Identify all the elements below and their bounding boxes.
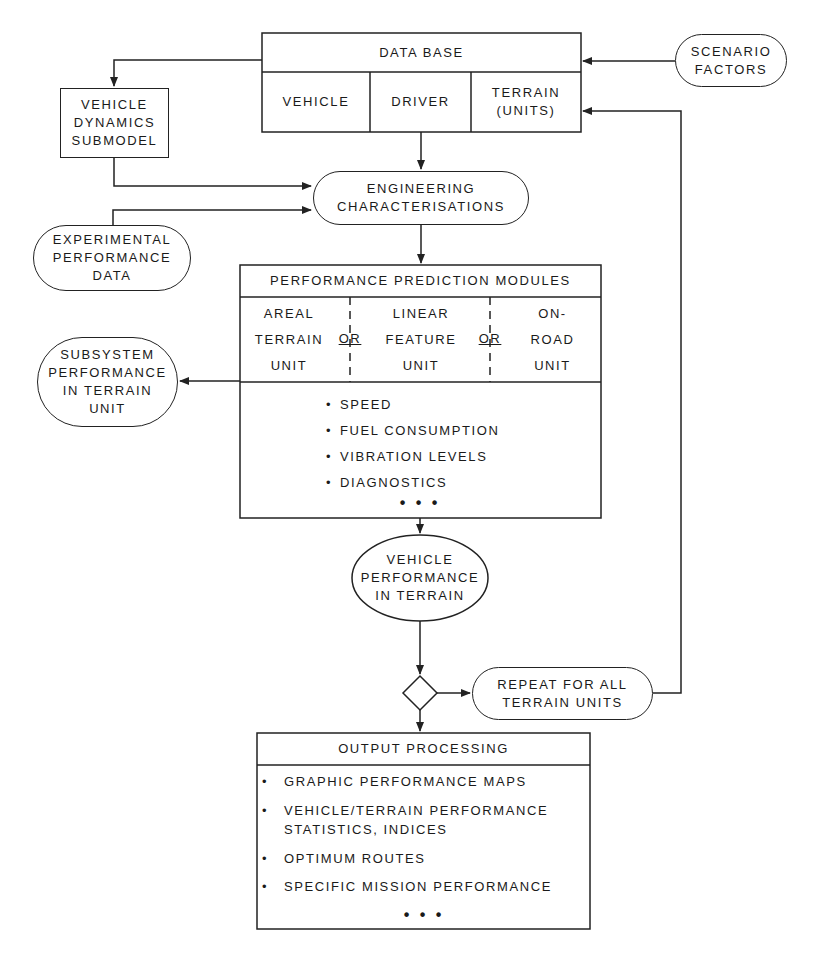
data-base-vehicle: VEHICLE	[262, 72, 370, 132]
experimental-performance-data-label: EXPERIMENTAL PERFORMANCE DATA	[53, 231, 172, 285]
data-base-title: DATA BASE	[262, 33, 581, 72]
list-item: •SPECIFIC MISSION PERFORMANCE	[262, 877, 552, 897]
bullet: •	[262, 877, 284, 897]
decision-diamond	[403, 676, 437, 710]
data-base-driver: DRIVER	[370, 72, 471, 132]
output-vehicle-terrain-statistics: VEHICLE/TERRAIN PERFORMANCE STATISTICS, …	[284, 801, 548, 840]
output-speed: SPEED	[340, 392, 392, 418]
list-item: •SPEED	[326, 392, 499, 418]
or-separator-1: OR	[336, 326, 364, 352]
list-item: •VIBRATION LEVELS	[326, 444, 499, 470]
bullet: •	[262, 801, 284, 821]
module-on-road-unit: ON- ROAD UNIT	[504, 297, 601, 382]
output-vibration-levels: VIBRATION LEVELS	[340, 444, 487, 470]
arrow-submodel-to-engineering	[114, 158, 311, 186]
list-item: •DIAGNOSTICS	[326, 470, 499, 496]
output-optimum-routes: OPTIMUM ROUTES	[284, 849, 426, 869]
module-areal-terrain-unit: AREAL TERRAIN UNIT	[240, 297, 338, 382]
performance-outputs-list: •SPEED •FUEL CONSUMPTION •VIBRATION LEVE…	[326, 392, 499, 496]
output-fuel-consumption: FUEL CONSUMPTION	[340, 418, 499, 444]
output-graphic-performance-maps: GRAPHIC PERFORMANCE MAPS	[284, 772, 527, 792]
bullet: •	[326, 470, 340, 496]
arrow-experimental-to-engineering	[113, 210, 311, 225]
bullet: •	[326, 444, 340, 470]
list-item: •GRAPHIC PERFORMANCE MAPS	[262, 772, 552, 792]
experimental-performance-data-node: EXPERIMENTAL PERFORMANCE DATA	[33, 225, 191, 291]
vehicle-dynamics-submodel-label: VEHICLE DYNAMICS SUBMODEL	[72, 96, 158, 150]
list-item: •VEHICLE/TERRAIN PERFORMANCE STATISTICS,…	[262, 801, 552, 840]
repeat-for-all-node: REPEAT FOR ALL TERRAIN UNITS	[472, 667, 653, 720]
output-diagnostics: DIAGNOSTICS	[340, 470, 447, 496]
vehicle-dynamics-submodel-node: VEHICLE DYNAMICS SUBMODEL	[60, 88, 169, 158]
vehicle-performance-in-terrain-label: VEHICLE PERFORMANCE IN TERRAIN	[352, 535, 488, 621]
subsystem-performance-label: SUBSYSTEM PERFORMANCE IN TERRAIN UNIT	[48, 346, 167, 418]
bullet: •	[326, 392, 340, 418]
output-ellipsis: • • •	[384, 906, 464, 924]
repeat-for-all-label: REPEAT FOR ALL TERRAIN UNITS	[497, 676, 627, 712]
subsystem-performance-node: SUBSYSTEM PERFORMANCE IN TERRAIN UNIT	[37, 337, 178, 427]
data-base-terrain-units: TERRAIN (UNITS)	[471, 72, 581, 132]
performance-prediction-title: PERFORMANCE PREDICTION MODULES	[240, 265, 601, 297]
engineering-characterisations-label: ENGINEERING CHARACTERISATIONS	[337, 180, 505, 216]
bullet: •	[262, 772, 284, 792]
scenario-factors-node: SCENARIO FACTORS	[675, 34, 787, 87]
bullet: •	[262, 849, 284, 869]
module-linear-feature-unit: LINEAR FEATURE UNIT	[364, 297, 478, 382]
output-processing-title: OUTPUT PROCESSING	[257, 733, 590, 765]
arrow-database-to-submodel	[114, 60, 262, 86]
output-specific-mission-performance: SPECIFIC MISSION PERFORMANCE	[284, 877, 552, 897]
or-separator-2: OR	[476, 326, 504, 352]
scenario-factors-label: SCENARIO FACTORS	[691, 43, 772, 79]
list-item: •OPTIMUM ROUTES	[262, 849, 552, 869]
list-item: •FUEL CONSUMPTION	[326, 418, 499, 444]
engineering-characterisations-node: ENGINEERING CHARACTERISATIONS	[313, 171, 529, 225]
performance-ellipsis: • • •	[380, 494, 460, 512]
bullet: •	[326, 418, 340, 444]
arrow-repeat-to-terrain	[583, 111, 681, 693]
output-processing-list: •GRAPHIC PERFORMANCE MAPS •VEHICLE/TERRA…	[262, 772, 552, 897]
